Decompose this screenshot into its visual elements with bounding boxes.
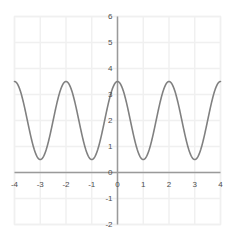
x-tick-label: -4 — [11, 181, 18, 189]
x-tick-label: -3 — [37, 181, 44, 189]
x-tick-label: -1 — [88, 181, 95, 189]
y-tick-label: 4 — [103, 65, 113, 73]
y-tick-label: -1 — [103, 195, 113, 203]
x-tick-label: 1 — [141, 181, 145, 189]
x-tick-label: 4 — [218, 181, 222, 189]
y-tick-label: -2 — [103, 221, 113, 229]
cosine-plot — [0, 0, 237, 241]
x-tick-label: 3 — [193, 181, 197, 189]
y-tick-label: 6 — [103, 13, 113, 21]
y-tick-label: 2 — [103, 117, 113, 125]
y-tick-label: 5 — [103, 39, 113, 47]
chart-figure: -4-3-2-101234-2-10123456 — [0, 0, 237, 241]
y-tick-label: 0 — [103, 169, 113, 177]
y-tick-label: 1 — [103, 143, 113, 151]
x-tick-label: 2 — [167, 181, 171, 189]
x-tick-label: -2 — [62, 181, 69, 189]
y-tick-label: 3 — [103, 91, 113, 99]
x-tick-label: 0 — [115, 181, 119, 189]
